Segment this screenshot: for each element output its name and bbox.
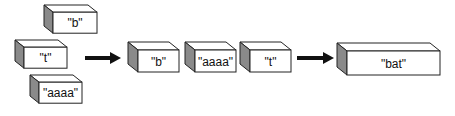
ordered-box-2: "t" <box>240 42 291 72</box>
box-label: "b" <box>67 16 82 30</box>
box-label: "t" <box>265 55 277 69</box>
arrow-icon-2 <box>297 52 334 64</box>
input-box-1: "t" <box>15 40 67 68</box>
box-label: "bat" <box>381 57 406 71</box>
ordered-box-0: "b" <box>128 42 179 72</box>
box-label: "aaaa" <box>198 55 233 69</box>
concatenation-diagram: "b""t""aaaa""b""aaaa""t""bat" <box>0 0 455 116</box>
input-box-2: "aaaa" <box>30 75 82 103</box>
input-box-0: "b" <box>44 5 97 33</box>
ordered-box-1: "aaaa" <box>185 42 236 72</box>
box-label: "b" <box>151 55 166 69</box>
arrow-icon-1 <box>85 52 121 64</box>
box-label: "t" <box>40 51 52 65</box>
box-label: "aaaa" <box>43 86 78 100</box>
result-box: "bat" <box>337 43 440 75</box>
box-top-face <box>337 43 440 51</box>
